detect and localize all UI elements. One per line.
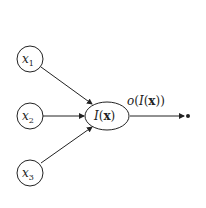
svg-text:I(x): I(x) [93,109,115,123]
neuron-node: I(x) [85,102,129,130]
output-dot [186,114,190,118]
edge-x3-neuron [41,127,92,163]
edge-x1-neuron [41,67,92,104]
output-label: o(I(x)) [127,94,165,108]
neuron-diagram: x1 x2 x3 I(x) o(I(x)) [0,0,206,208]
input-node-x3: x3 [17,160,43,186]
input-node-x2: x2 [17,103,43,129]
input-node-x1: x1 [17,46,43,72]
